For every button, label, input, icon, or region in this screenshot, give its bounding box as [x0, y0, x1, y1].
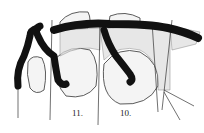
- label-10: 10.: [120, 108, 131, 118]
- gland-drawing: [0, 0, 204, 133]
- label-11: 11.: [72, 108, 83, 118]
- illustration: [0, 0, 204, 133]
- cell-small-left: [27, 57, 45, 93]
- cell-11: [56, 48, 97, 97]
